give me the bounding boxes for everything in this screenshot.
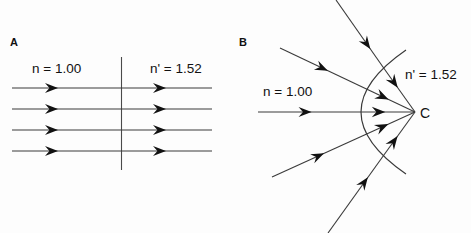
panel-b-ray-group bbox=[258, 0, 384, 233]
panel-b-letter: B bbox=[239, 36, 247, 48]
panel-b-refracting-index-label: n' = 1.52 bbox=[405, 67, 457, 82]
panel-b-ray-lower-steep-arrow bbox=[356, 177, 368, 190]
panel-a-ray-group bbox=[12, 83, 212, 156]
panel-b-ray-upper-steep bbox=[336, 0, 384, 68]
panel-a: A n = 1.00 n' = 1.52 bbox=[10, 36, 212, 170]
panel-b-ray-lower-steep-refracted-arrow bbox=[385, 136, 397, 150]
panel-a-incident-index-label: n = 1.00 bbox=[32, 61, 81, 76]
optics-figure: A n = 1.00 n' = 1.52 B n = 1.00 n' = 1.5… bbox=[0, 0, 471, 233]
panel-b-center-point-label: C bbox=[420, 105, 430, 121]
panel-b: B n = 1.00 n' = 1.52 C bbox=[239, 0, 457, 233]
optics-diagram-svg: A n = 1.00 n' = 1.52 B n = 1.00 n' = 1.5… bbox=[0, 0, 471, 233]
panel-b-ray-upper-steep-refracted-arrow bbox=[386, 74, 398, 88]
panel-a-letter: A bbox=[10, 36, 18, 48]
panel-b-ray-upper-steep-arrow bbox=[359, 35, 371, 49]
panel-b-ray-lower-steep-refracted bbox=[383, 112, 415, 156]
panel-a-refracting-index-label: n' = 1.52 bbox=[150, 61, 202, 76]
panel-b-ray-lower-steep bbox=[328, 156, 383, 233]
panel-b-incident-index-label: n = 1.00 bbox=[263, 84, 312, 99]
